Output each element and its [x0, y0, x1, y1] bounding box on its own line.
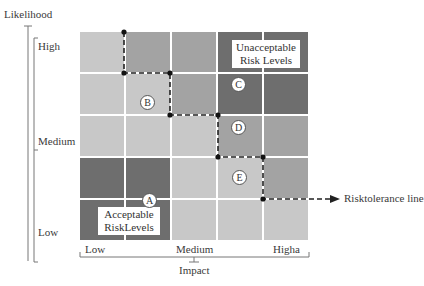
- marker-d: D: [231, 120, 246, 135]
- x-axis-title: Impact: [179, 264, 210, 276]
- y-tick-medium: Medium: [38, 135, 75, 147]
- x-tick-high: Higha: [273, 243, 300, 255]
- marker-a: A: [142, 193, 157, 208]
- y-tick-high: High: [38, 40, 60, 52]
- y-axis-title: Likelihood: [4, 8, 52, 20]
- marker-c: C: [231, 77, 246, 92]
- unacceptable-region-label: Unacceptable Risk Levels: [232, 40, 300, 68]
- y-tick-low: Low: [38, 226, 58, 238]
- marker-e: E: [232, 170, 247, 185]
- acceptable-region-label: Acceptable RiskLevels: [98, 207, 160, 235]
- risk-tolerance-label: Risktolerance line: [344, 192, 424, 204]
- x-tick-medium: Medium: [176, 243, 213, 255]
- marker-b: B: [140, 95, 155, 110]
- x-tick-low: Low: [85, 243, 105, 255]
